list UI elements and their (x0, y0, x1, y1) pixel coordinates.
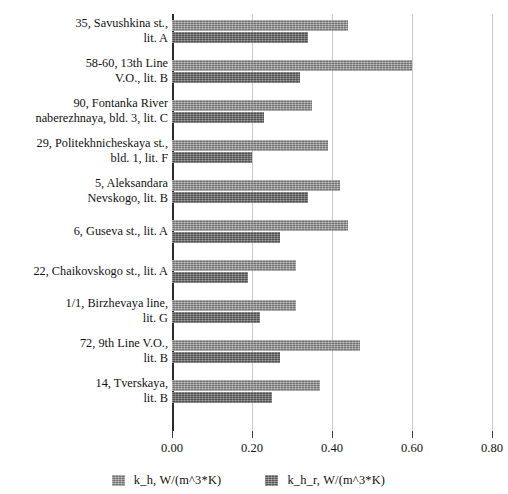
bar (172, 340, 360, 351)
category-label: 90, Fontanka River naberezhnaya, bld. 3,… (0, 96, 168, 125)
x-tick-mark (172, 431, 173, 438)
category-label: 29, Politekhnicheskaya st., bld. 1, lit.… (0, 136, 168, 165)
bar (172, 380, 320, 391)
x-tick-mark (252, 431, 253, 438)
bar (172, 60, 412, 71)
category-label: 1/1, Birzhevaya line, lit. G (0, 296, 168, 325)
bar (172, 180, 340, 191)
x-tick-mark (332, 431, 333, 438)
legend-label: k_h, W/(m^3*K) (134, 473, 222, 488)
bar (172, 220, 348, 231)
category-label: 14, Tverskaya, lit. B (0, 376, 168, 405)
bar (172, 32, 308, 43)
bar (172, 72, 300, 83)
bar (172, 192, 308, 203)
category-label: 5, Aleksandara Nevskogo, lit. B (0, 176, 168, 205)
x-tick-label: 0.80 (462, 441, 508, 456)
legend-entry: k_h, W/(m^3*K) (112, 473, 222, 488)
legend-swatch-dark (265, 475, 278, 486)
chart-legend: k_h, W/(m^3*K)k_h_r, W/(m^3*K) (0, 468, 497, 492)
legend-entry: k_h_r, W/(m^3*K) (265, 473, 385, 488)
x-tick-label: 0.60 (382, 441, 442, 456)
x-tick-label: 0.20 (222, 441, 282, 456)
x-tick-label: 0.00 (142, 441, 202, 456)
bar (172, 300, 296, 311)
category-label: 35, Savushkina st., lit. A (0, 16, 168, 45)
x-tick-mark (412, 431, 413, 438)
category-label: 58-60, 13th Line V.O., lit. B (0, 56, 168, 85)
bar (172, 20, 348, 31)
x-tick-mark (492, 431, 493, 438)
bar (172, 232, 280, 243)
category-label: 6, Guseva st., lit. A (0, 224, 168, 239)
category-label: 22, Chaikovskogo st., lit. A (0, 264, 168, 279)
bar (172, 112, 264, 123)
bar (172, 140, 328, 151)
bar (172, 392, 272, 403)
bar (172, 272, 248, 283)
bar (172, 260, 296, 271)
bar (172, 100, 312, 111)
bar (172, 352, 280, 363)
bar (172, 312, 260, 323)
x-tick-label: 0.40 (302, 441, 362, 456)
legend-swatch-light (112, 475, 125, 486)
legend-label: k_h_r, W/(m^3*K) (287, 473, 385, 488)
category-label: 72, 9th Line V.O., lit. B (0, 336, 168, 365)
bar (172, 152, 252, 163)
